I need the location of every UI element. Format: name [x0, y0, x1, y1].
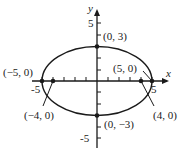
- y-tick-neg5: -5: [80, 132, 90, 144]
- point-0-neg3: [95, 113, 100, 118]
- point-neg5-0: [40, 79, 45, 84]
- ellipse-diagram: y x 5 -5 -5 5 (0, 3) (0, −3) (−5, 0) (5,…: [0, 0, 183, 154]
- y-tick-5: 5: [88, 17, 94, 29]
- label-0-neg3: (0, −3): [104, 118, 134, 131]
- y-axis-arrow-icon: [94, 9, 100, 16]
- label-neg4-0: (−4, 0): [24, 109, 54, 122]
- point-0-3: [95, 44, 100, 49]
- label-4-0: (4, 0): [153, 109, 177, 122]
- x-tick-neg5: -5: [31, 83, 41, 95]
- point-4-0: [139, 79, 144, 84]
- y-axis: [94, 9, 101, 148]
- x-tick-5: 5: [151, 83, 157, 95]
- y-axis-label: y: [87, 2, 93, 14]
- x-axis-label: x: [165, 67, 171, 79]
- label-0-3: (0, 3): [103, 30, 127, 43]
- label-5-0: (5, 0): [113, 62, 137, 75]
- leader-line-neg4: [43, 81, 53, 106]
- label-neg5-0: (−5, 0): [3, 66, 33, 79]
- point-neg4-0: [51, 79, 56, 84]
